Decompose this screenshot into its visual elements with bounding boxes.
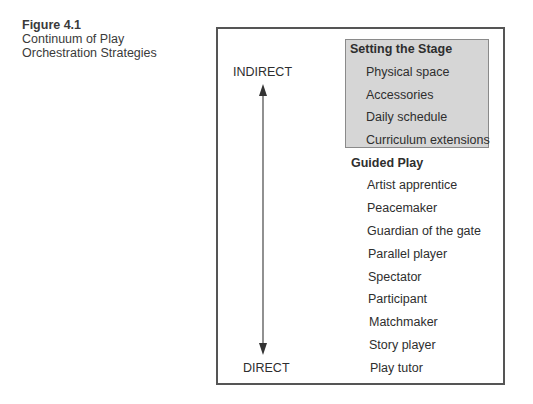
list-item: Matchmaker [369,315,438,329]
figure-number: Figure 4.1 [22,18,157,32]
list-item: Peacemaker [367,201,437,215]
list-item: Daily schedule [366,110,447,124]
section-heading-setting-the-stage: Setting the Stage [350,42,452,56]
list-item: Physical space [366,65,449,79]
double-arrow-icon [253,80,273,360]
list-item: Curriculum extensions [366,133,490,147]
list-item: Guardian of the gate [367,224,481,238]
list-item: Play tutor [370,361,423,375]
list-item: Spectator [368,270,422,284]
list-item: Accessories [366,88,433,102]
list-item: Artist apprentice [367,178,457,192]
list-item: Story player [369,338,436,352]
list-item: Parallel player [368,247,447,261]
section-heading-guided-play: Guided Play [351,156,423,170]
figure-caption: Figure 4.1 Continuum of Play Orchestrati… [22,18,157,60]
list-item: Participant [368,292,427,306]
indirect-label: INDIRECT [233,65,292,79]
figure-title-line2: Orchestration Strategies [22,46,157,60]
figure-title-line1: Continuum of Play [22,32,157,46]
direct-label: DIRECT [243,361,290,375]
